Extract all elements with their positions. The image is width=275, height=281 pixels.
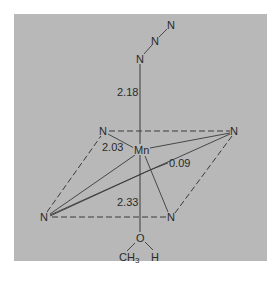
distance-mn-equatorial: 2.03 <box>102 141 123 153</box>
equatorial-n-bottom-right: N <box>167 211 175 223</box>
manganese-atom: Mn <box>134 144 149 156</box>
methyl-ch: CH <box>119 251 135 263</box>
oxygen-atom: O <box>136 232 145 244</box>
equatorial-n-top-left: N <box>99 125 107 137</box>
equatorial-n-bottom-left: N <box>40 211 48 223</box>
distance-mn-oxygen: 2.33 <box>117 196 138 208</box>
azide-bound-n: N <box>136 53 144 65</box>
azide-terminal-n: N <box>167 19 175 31</box>
methyl-subscript: 3 <box>135 256 140 265</box>
hydrogen-atom: H <box>151 251 159 263</box>
equatorial-n-top-right: N <box>230 125 238 137</box>
distance-mn-azide: 2.18 <box>117 86 138 98</box>
manganese-coordination-diagram: N N N N N N N Mn O CH3 H 2.18 2.03 0.09 … <box>0 0 275 281</box>
azide-middle-n: N <box>151 35 159 47</box>
distance-displacement: 0.09 <box>169 157 190 169</box>
